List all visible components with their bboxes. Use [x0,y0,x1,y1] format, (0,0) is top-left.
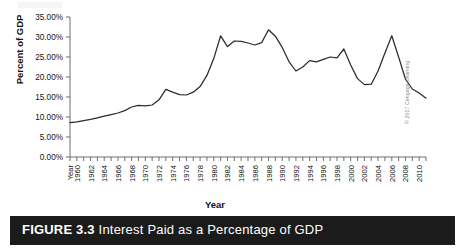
figure-title: Interest Paid as a Percentage of GDP [99,222,324,237]
x-tick-label: 2008 [401,165,410,182]
x-axis-ticks: Year196019621964196619681970197219741976… [66,157,426,182]
x-tick-label: 1966 [114,165,123,182]
x-tick-label: 2010 [415,165,424,182]
x-tick-label: 1974 [169,165,178,182]
y-tick-label: 0.00% [40,153,63,162]
y-tick-label: 25.00% [35,53,63,62]
x-tick-label: 1990 [278,165,287,182]
x-tick-label: 1984 [237,165,246,182]
x-tick-label: 1998 [333,165,342,182]
x-tick-label: 1970 [141,165,150,182]
x-tick-label: 1996 [319,165,328,182]
x-tick-label: 2002 [360,165,369,182]
y-axis-ticks: 35.00%30.00%25.00%20.00%15.00%10.00%5.00… [35,13,70,162]
x-tick-label: 1982 [223,165,232,182]
y-tick-label: 5.00% [40,133,63,142]
x-tick-label: 1978 [196,165,205,182]
x-tick-label: 1980 [210,165,219,182]
chart-plot-area: Percent of GDP 35.00%30.00%25.00%20.00%1… [0,0,465,212]
y-tick-label: 10.00% [35,113,63,122]
x-tick-label: 1960 [73,165,82,182]
y-tick-label: 15.00% [35,93,63,102]
x-tick-label: 2000 [347,165,356,182]
x-tick-label: 1976 [182,165,191,182]
x-tick-label: 2004 [374,165,383,182]
interest-paid-series-line [70,30,426,123]
x-tick-label: 1992 [292,165,301,182]
copyright-credit: © 2017 Cengage Learning [404,44,410,124]
x-tick-label: 1994 [306,165,315,182]
line-chart: 35.00%30.00%25.00%20.00%15.00%10.00%5.00… [0,0,465,212]
figure-caption: FIGURE 3.3 Interest Paid as a Percentage… [22,222,323,237]
y-axis-title: Percent of GDP [14,5,25,95]
x-tick-label: 2006 [388,165,397,182]
x-tick-label: 1986 [251,165,260,182]
figure-container: Percent of GDP 35.00%30.00%25.00%20.00%1… [0,0,465,249]
y-tick-label: 35.00% [35,13,63,22]
x-tick-label: 1968 [128,165,137,182]
y-tick-label: 30.00% [35,33,63,42]
x-axis-title: Year [0,199,430,210]
y-tick-label: 20.00% [35,73,63,82]
x-tick-label: 1964 [100,165,109,182]
x-tick-label: 1988 [265,165,274,182]
figure-number: FIGURE 3.3 [22,222,95,237]
x-tick-label: 1962 [87,165,96,182]
x-tick-label: 1972 [155,165,164,182]
